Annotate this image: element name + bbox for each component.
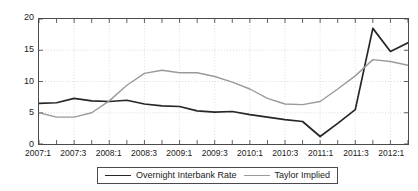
x-tick-label: 2012:1 bbox=[378, 148, 404, 158]
y-tick-label: 15 bbox=[24, 45, 34, 54]
x-tick-label: 2010:1 bbox=[237, 148, 263, 158]
legend-label: Overnight Interbank Rate bbox=[136, 171, 237, 180]
x-tick-label: 2007:1 bbox=[25, 148, 51, 158]
data-layer bbox=[39, 19, 408, 144]
legend-label: Taylor Implied bbox=[275, 171, 331, 180]
y-tick-label: 20 bbox=[24, 13, 34, 22]
x-axis: 2007:12007:32008:12008:32009:12009:32010… bbox=[0, 146, 418, 164]
series-line-1 bbox=[39, 60, 408, 118]
series-line-0 bbox=[39, 28, 408, 136]
chart-figure: 05101520 2007:12007:32008:12008:32009:12… bbox=[0, 0, 418, 191]
x-tick-label: 2008:1 bbox=[96, 148, 122, 158]
legend-item-overnight-interbank-rate: Overnight Interbank Rate bbox=[105, 171, 237, 180]
chart-legend: Overnight Interbank Rate Taylor Implied bbox=[97, 167, 338, 184]
legend-item-taylor-implied: Taylor Implied bbox=[244, 171, 331, 180]
plot-area bbox=[38, 18, 409, 145]
legend-line-swatch-icon bbox=[105, 175, 131, 176]
y-tick-label: 5 bbox=[29, 108, 34, 117]
x-tick-label: 2009:3 bbox=[202, 148, 228, 158]
legend-line-swatch-icon bbox=[244, 175, 270, 176]
x-tick-label: 2011:3 bbox=[343, 148, 368, 158]
x-tick-label: 2009:1 bbox=[166, 148, 192, 158]
y-tick-label: 10 bbox=[24, 77, 34, 86]
x-tick-label: 2011:1 bbox=[308, 148, 333, 158]
x-tick-label: 2010:3 bbox=[272, 148, 298, 158]
x-tick-label: 2007:3 bbox=[60, 148, 86, 158]
x-tick-label: 2008:3 bbox=[131, 148, 157, 158]
